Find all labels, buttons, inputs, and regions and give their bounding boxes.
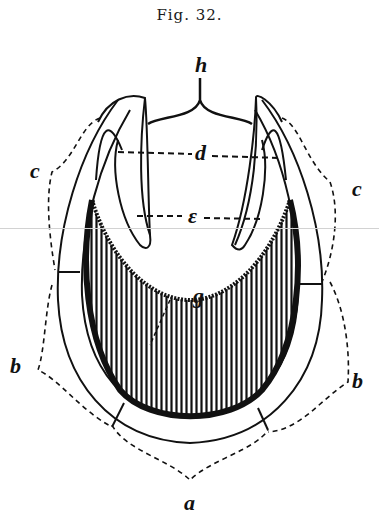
label-c-left: c xyxy=(30,160,40,182)
label-g: g xyxy=(193,285,204,307)
hoof-sole-diagram xyxy=(0,0,379,514)
scan-artifact-line xyxy=(0,228,379,229)
brace-h xyxy=(148,78,252,124)
label-a: a xyxy=(184,492,195,514)
label-b-left: b xyxy=(10,355,21,377)
label-h: h xyxy=(195,54,207,76)
label-c-right: c xyxy=(352,178,362,200)
region-a xyxy=(112,425,268,480)
line-e xyxy=(137,216,262,219)
label-e: ε xyxy=(188,205,197,227)
label-d: d xyxy=(195,142,206,164)
label-b-right: b xyxy=(352,370,363,392)
